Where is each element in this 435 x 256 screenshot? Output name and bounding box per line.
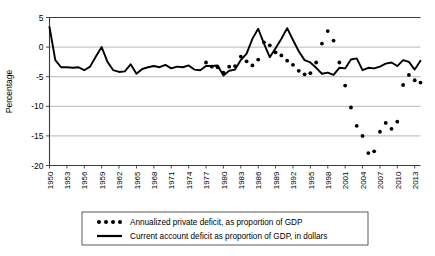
- y-tick-label: 0: [39, 42, 44, 52]
- grid-layer: [50, 18, 421, 166]
- y-axis-title-text: Percentage: [4, 69, 14, 113]
- x-tick-label: 1971: [167, 171, 176, 189]
- data-point: [378, 130, 382, 134]
- data-point: [355, 124, 359, 128]
- x-tick-label: 1977: [202, 171, 211, 189]
- data-point: [384, 121, 388, 125]
- x-tick-label: 2004: [359, 171, 368, 189]
- data-point: [349, 106, 353, 110]
- y-axis-title: Percentage: [4, 69, 14, 113]
- data-point: [407, 73, 411, 77]
- data-point: [204, 61, 208, 65]
- legend-item-label: Annualized private deficit, as proportio…: [130, 218, 303, 227]
- data-point: [419, 81, 423, 85]
- x-tick-label: 1998: [324, 171, 333, 189]
- x-tick-label: 1953: [63, 171, 72, 189]
- x-tick-label: 1986: [254, 171, 263, 189]
- data-point: [303, 72, 307, 76]
- y-tick-label: -10: [31, 101, 44, 111]
- legend-item-label: Current account deficit as proportion of…: [130, 232, 327, 241]
- data-point: [401, 83, 405, 87]
- data-point: [326, 29, 330, 33]
- x-tick-label: 1989: [272, 171, 281, 189]
- data-point: [343, 84, 347, 88]
- y-tick-label: -15: [31, 131, 44, 141]
- data-point: [308, 71, 312, 75]
- x-tick-label: 1968: [150, 171, 159, 189]
- data-point: [227, 65, 231, 69]
- x-tick-label: 2007: [376, 171, 385, 189]
- data-point: [297, 69, 301, 73]
- x-tick-label: 2013: [411, 171, 420, 189]
- data-point: [268, 43, 272, 47]
- chart-canvas: 50-5-10-15-20 19501953195619591962196519…: [0, 0, 435, 256]
- chart-figure: 50-5-10-15-20 19501953195619591962196519…: [0, 0, 435, 256]
- ytick-label-layer: 50-5-10-15-20: [31, 13, 49, 171]
- legend: Annualized private deficit, as proportio…: [82, 212, 368, 245]
- y-tick-label: -20: [31, 161, 44, 171]
- data-point: [361, 134, 365, 138]
- x-tick-label: 1983: [237, 171, 246, 189]
- data-point: [390, 127, 394, 131]
- data-point: [366, 151, 370, 155]
- x-tick-label: 1950: [46, 171, 55, 189]
- data-point: [256, 58, 260, 62]
- x-tick-label: 2010: [394, 171, 403, 189]
- x-tick-label: 1980: [220, 171, 229, 189]
- data-point: [314, 61, 318, 65]
- data-point: [372, 149, 376, 153]
- x-tick-label: 1965: [133, 171, 142, 189]
- data-point: [285, 59, 289, 63]
- data-point: [291, 63, 295, 67]
- series-solid-current-account-deficit: [50, 27, 421, 76]
- x-tick-label: 2001: [341, 171, 350, 189]
- x-tick-label: 1959: [98, 171, 107, 189]
- data-point: [395, 120, 399, 124]
- data-point: [250, 64, 254, 68]
- x-tick-label: 1956: [80, 171, 89, 189]
- legend-dotted-marker-icon: [97, 220, 122, 224]
- xtick-label-layer: 1950195319561959196219651968197119741977…: [46, 166, 420, 190]
- data-point: [337, 61, 341, 65]
- x-tick-label: 1995: [307, 171, 316, 189]
- x-tick-label: 1974: [185, 171, 194, 189]
- data-point: [245, 59, 249, 63]
- data-point: [332, 39, 336, 43]
- x-tick-label: 1962: [115, 171, 124, 189]
- data-point: [279, 53, 283, 57]
- y-tick-label: 5: [39, 13, 44, 23]
- data-point: [413, 78, 417, 82]
- y-tick-label: -5: [36, 72, 44, 82]
- x-tick-label: 1992: [289, 171, 298, 189]
- data-point: [320, 42, 324, 46]
